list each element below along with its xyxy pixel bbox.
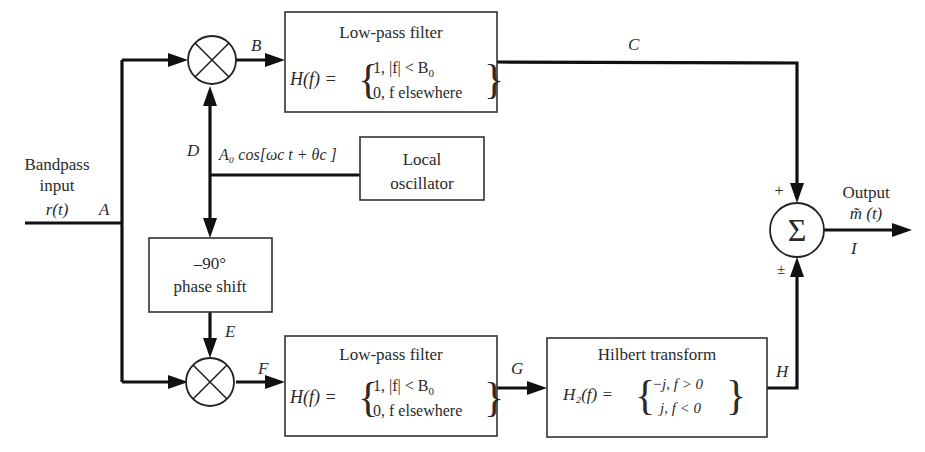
phase-shift-line2: phase shift [173, 277, 246, 296]
hilbert-transform-block: Hilbert transform H₂(f) = { −j, f > 0 j,… [547, 338, 767, 437]
node-label-f: F [257, 359, 269, 378]
hilbert-case2: j, f < 0 [658, 400, 701, 416]
node-label-h: H [775, 362, 790, 381]
lowpass-filter-bottom: Low-pass filter H(f) = { 1, |f| < B0 0, … [285, 336, 504, 436]
arrow-right-icon [892, 223, 912, 237]
lpf-top-case2: 0, f elsewhere [373, 84, 462, 101]
local-oscillator-line1: Local [403, 150, 442, 169]
hilbert-eq-lhs: H₂(f) = [562, 385, 613, 404]
output-signal-label: m̃ (t) [850, 204, 883, 223]
arrow-down-icon [790, 183, 804, 203]
lowpass-filter-top: Low-pass filter H(f) = { 1, |f| < B0 0, … [285, 12, 504, 112]
output-labels: Output m̃ (t) [842, 183, 890, 223]
arrow-right-icon [527, 381, 547, 395]
lpf-top-eq-lhs: H(f) = [289, 69, 337, 90]
right-brace-icon: } [484, 374, 504, 420]
sign-plus-minus: ± [777, 261, 785, 277]
wire-c [497, 62, 797, 189]
node-label-c: C [628, 35, 640, 54]
node-label-a: A [98, 200, 110, 219]
arrow-down-icon [203, 218, 217, 238]
node-label-g: G [511, 359, 523, 378]
right-brace-icon: } [484, 56, 504, 102]
input-signal-label: r(t) [46, 200, 69, 219]
arrow-right-icon [265, 53, 285, 67]
input-label-line1: Bandpass [24, 155, 89, 174]
arrow-up-icon [203, 86, 217, 106]
oscillator-signal-label: A₀ cos[ωc t + θc ] [218, 146, 337, 163]
lpf-top-title: Low-pass filter [339, 23, 443, 42]
phase-shift-line1: –90° [193, 254, 226, 273]
node-label-i: I [850, 239, 858, 258]
block-diagram: Σ + ± Low-pass filter H(f) = { 1, |f| < … [0, 0, 925, 452]
mixer-top [188, 36, 236, 84]
node-label-d: D [186, 141, 200, 160]
arrow-right-icon [168, 53, 188, 67]
sigma-icon: Σ [788, 212, 807, 248]
input-labels: Bandpass input r(t) [24, 155, 89, 219]
lpf-bottom-title: Low-pass filter [339, 345, 443, 364]
local-oscillator-block: Local oscillator A₀ cos[ωc t + θc ] [218, 137, 484, 200]
phase-shift-block: –90° phase shift [149, 238, 272, 312]
lpf-bottom-eq-lhs: H(f) = [289, 387, 337, 408]
node-label-b: B [251, 36, 262, 55]
arrow-up-icon [790, 257, 804, 277]
node-label-e: E [224, 322, 236, 341]
output-label: Output [842, 183, 890, 202]
lpf-bottom-case2: 0, f elsewhere [373, 402, 462, 419]
arrow-down-icon [203, 338, 217, 358]
hilbert-case1: −j, f > 0 [652, 376, 704, 392]
arrow-right-icon [168, 375, 188, 389]
right-brace-icon: } [726, 372, 746, 418]
sign-plus: + [774, 182, 783, 199]
local-oscillator-line2: oscillator [390, 174, 454, 193]
hilbert-title: Hilbert transform [598, 345, 717, 364]
mixer-bottom [186, 358, 234, 406]
input-label-line2: input [40, 176, 75, 195]
